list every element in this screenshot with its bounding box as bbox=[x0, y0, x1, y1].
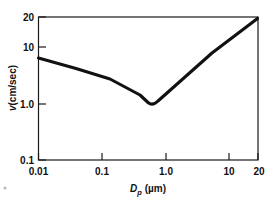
scan-artifact-speck bbox=[3, 186, 6, 189]
x-tick-label-0.01: 0.01 bbox=[29, 166, 49, 177]
x-axis-ticks bbox=[39, 153, 259, 160]
y-axis-title: v(cm/sec) bbox=[7, 65, 18, 111]
y-axis-ticks bbox=[39, 17, 47, 160]
x-axis-title-subscript: p bbox=[136, 188, 142, 197]
y-axis-title-units: (cm/sec) bbox=[7, 65, 18, 106]
x-tick-label-1.0: 1.0 bbox=[159, 166, 173, 177]
plot-frame bbox=[39, 17, 259, 160]
data-curve-collection-velocity bbox=[39, 19, 258, 105]
x-tick-labels: 0.01 0.1 1.0 10 20 bbox=[29, 166, 265, 177]
y-tick-label-20: 20 bbox=[23, 12, 35, 23]
x-tick-label-10: 10 bbox=[223, 166, 235, 177]
y-tick-labels: 20 10 1.0 0.1 bbox=[20, 12, 34, 166]
x-tick-label-20: 20 bbox=[253, 166, 265, 177]
chart-svg: 20 10 1.0 0.1 0.01 0.1 1.0 10 20 Dp(µm) … bbox=[0, 0, 269, 199]
svg-text:v(cm/sec): v(cm/sec) bbox=[7, 65, 18, 111]
chart-figure: 20 10 1.0 0.1 0.01 0.1 1.0 10 20 Dp(µm) … bbox=[0, 0, 269, 199]
plot-frame-rect bbox=[39, 17, 259, 160]
x-axis-title: Dp(µm) bbox=[130, 183, 166, 197]
y-tick-label-1: 1.0 bbox=[20, 99, 34, 110]
x-axis-title-symbol: D bbox=[130, 183, 137, 194]
svg-text:Dp(µm): Dp(µm) bbox=[130, 183, 166, 197]
y-tick-label-10: 10 bbox=[23, 42, 35, 53]
x-axis-title-units: (µm) bbox=[145, 183, 166, 194]
x-tick-label-0.1: 0.1 bbox=[95, 166, 109, 177]
y-tick-label-0.1: 0.1 bbox=[20, 155, 34, 166]
